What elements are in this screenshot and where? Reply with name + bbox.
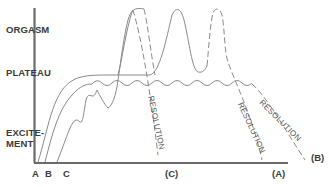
start-label-b: B bbox=[45, 168, 52, 179]
curve-a-orgasm-2 bbox=[150, 9, 207, 75]
end-label-b: (B) bbox=[311, 152, 324, 163]
end-label-c: (C) bbox=[165, 168, 178, 179]
curve-b-rise bbox=[45, 84, 92, 162]
start-label-a: A bbox=[32, 168, 39, 179]
curve-a-orgasm-1-down bbox=[144, 9, 155, 75]
curve-b-wavy-plateau bbox=[92, 81, 252, 86]
phase-label-excitement-line2: MENT bbox=[6, 138, 44, 149]
phase-label-plateau: PLATEAU bbox=[6, 67, 51, 78]
curve-a-rise bbox=[38, 75, 150, 162]
start-label-c: C bbox=[63, 168, 70, 179]
phase-label-excitement: EXCITE- MENT bbox=[6, 127, 44, 149]
phase-label-excitement-line1: EXCITE- bbox=[6, 127, 44, 138]
response-cycle-diagram: ORGASM PLATEAU EXCITE- MENT A B C (C) (A… bbox=[0, 0, 329, 187]
curve-a-orgasm-1 bbox=[118, 8, 144, 75]
end-label-a: (A) bbox=[272, 168, 285, 179]
curve-c-rise bbox=[57, 10, 133, 162]
phase-label-orgasm: ORGASM bbox=[6, 24, 49, 35]
